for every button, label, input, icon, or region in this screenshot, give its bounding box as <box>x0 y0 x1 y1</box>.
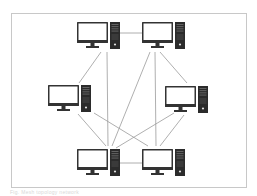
network-nodes <box>48 22 208 176</box>
link-pc-top-left-pc-mid-left <box>79 52 101 83</box>
figure-caption: Fig. Mesh topology network <box>10 189 79 195</box>
tower-icon <box>81 85 91 112</box>
pc-mid-right-computer-icon <box>165 86 208 113</box>
tower-icon <box>110 149 120 176</box>
tower-icon <box>175 22 185 49</box>
pc-top-left-computer-icon <box>77 22 120 49</box>
tower-icon <box>175 149 185 176</box>
mesh-topology-diagram <box>0 0 257 196</box>
link-pc-top-right-pc-bottom-left <box>112 52 150 146</box>
link-pc-mid-right-pc-bottom-left <box>116 113 174 148</box>
link-pc-top-left-pc-bottom-left <box>107 52 108 146</box>
pc-bottom-left-computer-icon <box>77 149 120 176</box>
pc-top-right-computer-icon <box>142 22 185 49</box>
pc-mid-left-computer-icon <box>48 85 91 112</box>
link-pc-top-right-pc-bottom-right <box>155 52 156 146</box>
tower-icon <box>110 22 120 49</box>
tower-icon <box>198 86 208 113</box>
link-pc-top-right-pc-mid-right <box>160 52 187 83</box>
link-pc-mid-left-pc-bottom-left <box>78 114 106 146</box>
pc-bottom-right-computer-icon <box>142 149 185 176</box>
